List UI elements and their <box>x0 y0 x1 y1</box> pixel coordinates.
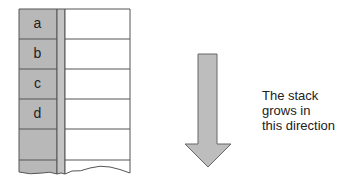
stack-growth-caption: The stack grows in this direction <box>262 88 335 133</box>
stack-white-area <box>65 9 130 174</box>
down-arrow-icon <box>185 54 231 167</box>
stack-cell-c: c <box>19 75 56 91</box>
stack-cell-a: a <box>19 15 56 31</box>
stack-shaded-column <box>19 9 57 174</box>
caption-line-2: grows in <box>262 103 335 118</box>
caption-line-3: this direction <box>262 118 335 133</box>
stack-cell-b: b <box>19 45 56 61</box>
caption-line-1: The stack <box>262 88 335 103</box>
stack-narrow-column <box>57 9 65 174</box>
stack-cell-d: d <box>19 105 56 121</box>
